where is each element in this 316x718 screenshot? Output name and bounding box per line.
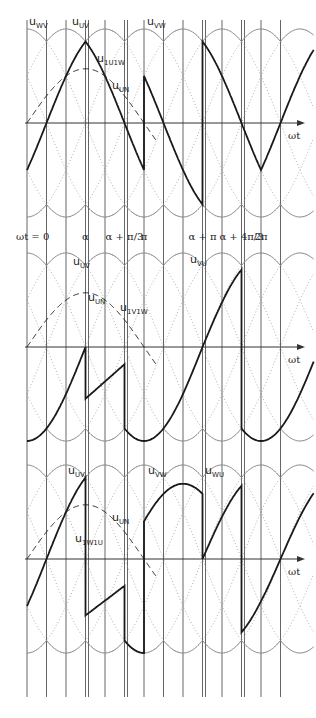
x-tick-label: 2π: [255, 231, 268, 242]
x-tick-label: α + π: [188, 231, 216, 242]
label-u-1v1w: u1V1W: [120, 301, 148, 316]
upper-envelope: [27, 29, 314, 42]
label-u-wv: uWV: [29, 15, 48, 30]
label-u-un: uUN: [112, 511, 129, 526]
panel-middle: ωtuUVuUNu1V1WuVU: [25, 253, 314, 441]
lower-envelope: [27, 429, 314, 442]
lower-envelope: [27, 205, 314, 218]
axis-arrow-icon: [297, 556, 305, 562]
label-u-uv: uUV: [68, 464, 85, 479]
axis-arrow-icon: [297, 344, 305, 350]
waveform-diagram: ωtuWVuUVu1U1WuUNuVW ωtuUVuUNu1V1WuVU ωtu…: [0, 0, 316, 718]
axis-label: ωt: [288, 566, 300, 577]
output-voltage-u-1v1w: [27, 270, 314, 441]
axis-label: ωt: [288, 130, 300, 141]
axis-label: ωt: [288, 354, 300, 365]
x-tick-label: α: [82, 231, 89, 242]
label-u-vw: uVW: [148, 464, 167, 479]
x-tick-label: ωt = 0: [16, 231, 49, 242]
axis-arrow-icon: [297, 120, 305, 126]
x-tick-label: π: [141, 231, 148, 242]
lower-envelope: [27, 641, 314, 654]
output-voltage-u-1w1u: [27, 478, 314, 653]
label-u-un: uUN: [112, 79, 129, 94]
label-u-1u1w: u1U1W: [97, 52, 125, 67]
x-tick-label: α + π/3: [106, 231, 144, 242]
label-u-vu: uVU: [190, 253, 207, 268]
label-u-1w1u: u1W1U: [75, 532, 103, 547]
panel-bottom: ωtuUVuVWuWUuUNu1W1U: [25, 464, 314, 653]
panel-top: ωtuWVuUVu1U1WuUNuVW: [25, 15, 314, 217]
label-u-wu: uWU: [205, 464, 224, 479]
label-u-vw: uVW: [147, 15, 166, 30]
label-u-un: uUN: [88, 291, 105, 306]
label-u-uv: uUV: [72, 15, 89, 30]
label-u-uv: uUV: [73, 255, 90, 270]
x-tick-labels: ωt = 0αα + π/3πα + πα + 4π/32π: [16, 231, 268, 242]
upper-envelope: [27, 253, 314, 266]
vertical-grid-lines: [27, 20, 281, 697]
